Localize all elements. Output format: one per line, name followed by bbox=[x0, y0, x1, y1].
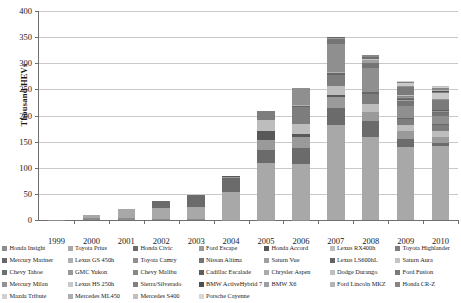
legend-swatch-icon bbox=[330, 282, 335, 287]
legend-item[interactable]: Ford Fusion bbox=[395, 266, 461, 278]
legend-swatch-icon bbox=[395, 270, 400, 275]
legend-swatch-icon bbox=[395, 282, 400, 287]
bar-segment bbox=[292, 164, 309, 220]
legend-item[interactable]: Lexus RX400h bbox=[330, 242, 396, 254]
legend-item[interactable]: Ford Escape bbox=[199, 242, 265, 254]
legend-swatch-icon bbox=[199, 246, 204, 251]
legend-item[interactable]: Dodge Durango bbox=[330, 266, 396, 278]
legend-swatch-icon bbox=[330, 258, 335, 263]
legend-item[interactable]: Cadillac Escalade bbox=[199, 266, 265, 278]
chart-legend: Honda InsightToyota PriusHonda CivicFord… bbox=[2, 242, 461, 302]
legend-item-label: Toyota Prius bbox=[75, 245, 107, 251]
legend-swatch-icon bbox=[264, 258, 269, 263]
legend-item[interactable]: GMC Yukon bbox=[68, 266, 134, 278]
y-tick-label: 400 bbox=[0, 7, 32, 16]
bar-segment bbox=[397, 131, 414, 139]
bar-group bbox=[83, 215, 100, 220]
legend-item[interactable]: Chrysler Aspen bbox=[264, 266, 330, 278]
legend-swatch-icon bbox=[133, 282, 138, 287]
legend-item[interactable]: Lexus HS 250h bbox=[68, 278, 134, 290]
bar-segment bbox=[257, 140, 274, 150]
legend-item-label: Sierra/Silverado bbox=[141, 281, 182, 287]
legend-item[interactable]: Mercedes ML450 bbox=[68, 290, 134, 302]
legend-swatch-icon bbox=[330, 270, 335, 275]
bar-group bbox=[152, 201, 169, 220]
legend-item[interactable]: Mercury Mariner bbox=[2, 254, 68, 266]
bar-group bbox=[257, 111, 274, 220]
legend-swatch-icon bbox=[68, 258, 73, 263]
legend-swatch-icon bbox=[330, 246, 335, 251]
bar-segment bbox=[432, 116, 449, 124]
bar-group bbox=[327, 37, 344, 220]
bar-segment bbox=[362, 94, 379, 104]
bar-segment bbox=[83, 218, 100, 220]
bar-group bbox=[118, 209, 135, 220]
legend-item[interactable]: Lexus GS 450h bbox=[68, 254, 134, 266]
bar-segment bbox=[327, 108, 344, 125]
legend-item-label: GMC Yukon bbox=[75, 269, 107, 275]
legend-item[interactable]: Honda CR-Z bbox=[395, 278, 461, 290]
x-tick-mark bbox=[179, 220, 180, 224]
legend-item[interactable]: Toyota Camry bbox=[133, 254, 199, 266]
bar-segment bbox=[187, 207, 204, 220]
legend-item[interactable]: Saturn Aura bbox=[395, 254, 461, 266]
legend-item-label: Toyota Highlander bbox=[403, 245, 450, 251]
legend-item[interactable]: Honda Civic bbox=[133, 242, 199, 254]
legend-item[interactable]: Mazda Tribute bbox=[2, 290, 68, 302]
legend-item[interactable]: Toyota Prius bbox=[68, 242, 134, 254]
legend-item-label: Chevy Malibu bbox=[141, 269, 177, 275]
legend-item[interactable]: Porsche Cayenne bbox=[199, 290, 265, 302]
legend-item-label: Lexus GS 450h bbox=[75, 257, 114, 263]
bar-segment bbox=[362, 68, 379, 92]
legend-item-label: Mercury Mariner bbox=[10, 257, 54, 263]
legend-item[interactable]: Saturn Vue bbox=[264, 254, 330, 266]
bar-segment bbox=[432, 146, 449, 220]
y-tick-label: 350 bbox=[0, 33, 32, 42]
legend-item[interactable]: Nissan Altima bbox=[199, 254, 265, 266]
x-tick-mark bbox=[388, 220, 389, 224]
legend-item-label: Chrysler Aspen bbox=[272, 269, 311, 275]
legend-swatch-icon bbox=[395, 258, 400, 263]
legend-swatch-icon bbox=[2, 282, 7, 287]
legend-item-label: Lexus RX400h bbox=[337, 245, 375, 251]
x-tick-mark bbox=[109, 220, 110, 224]
legend-item-label: Chevy Tahoe bbox=[10, 269, 43, 275]
legend-item-label: Honda Civic bbox=[141, 245, 173, 251]
legend-item[interactable]: Honda Accord bbox=[264, 242, 330, 254]
bar-segment bbox=[327, 125, 344, 220]
legend-item[interactable]: Chevy Tahoe bbox=[2, 266, 68, 278]
x-tick-mark bbox=[353, 220, 354, 224]
bar-segment bbox=[187, 195, 204, 206]
bars-layer bbox=[39, 11, 458, 220]
bar-segment bbox=[222, 178, 239, 191]
bar-segment bbox=[292, 107, 309, 123]
bar-group bbox=[187, 195, 204, 220]
legend-item-label: Porsche Cayenne bbox=[206, 293, 250, 299]
bar-segment bbox=[397, 87, 414, 95]
legend-swatch-icon bbox=[68, 270, 73, 275]
bar-group bbox=[362, 55, 379, 220]
legend-swatch-icon bbox=[2, 294, 7, 299]
legend-item[interactable]: Chevy Malibu bbox=[133, 266, 199, 278]
bar-segment bbox=[292, 124, 309, 135]
legend-item[interactable]: BMW ActiveHybrid 7 bbox=[199, 278, 265, 290]
x-tick-mark bbox=[249, 220, 250, 224]
bar-segment bbox=[257, 131, 274, 140]
legend-swatch-icon bbox=[68, 294, 73, 299]
legend-item[interactable]: Toyota Highlander bbox=[395, 242, 461, 254]
legend-item[interactable]: Sierra/Silverado bbox=[133, 278, 199, 290]
legend-item[interactable]: Mercury Milan bbox=[2, 278, 68, 290]
y-tick-label: 0 bbox=[0, 216, 32, 225]
bar-segment bbox=[397, 139, 414, 147]
legend-swatch-icon bbox=[199, 294, 204, 299]
legend-item[interactable]: Ford Lincoln MKZ bbox=[330, 278, 396, 290]
bar-segment bbox=[118, 209, 135, 217]
legend-item[interactable]: Honda Insight bbox=[2, 242, 68, 254]
bar-segment bbox=[292, 148, 309, 164]
legend-item[interactable]: BMW X6 bbox=[264, 278, 330, 290]
legend-item-label: Ford Lincoln MKZ bbox=[337, 281, 386, 287]
legend-item-label: Mercury Milan bbox=[10, 281, 48, 287]
legend-item[interactable]: Mercedes S400 bbox=[133, 290, 199, 302]
legend-item[interactable]: Lexus LS600hL bbox=[330, 254, 396, 266]
y-tick-label: 300 bbox=[0, 59, 32, 68]
